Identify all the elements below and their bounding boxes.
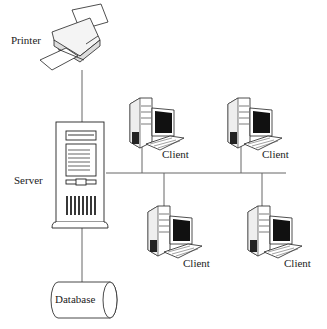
network-diagram bbox=[0, 0, 327, 329]
printer-icon bbox=[40, 4, 108, 70]
database-label: Database bbox=[55, 293, 95, 305]
client4-computer-icon bbox=[248, 206, 302, 258]
client4-label: Client bbox=[284, 257, 311, 269]
server-tower-icon bbox=[52, 122, 108, 228]
client3-computer-icon bbox=[148, 206, 202, 258]
client3-label: Client bbox=[183, 257, 210, 269]
printer-label: Printer bbox=[11, 34, 41, 46]
client2-label: Client bbox=[262, 148, 289, 160]
client1-label: Client bbox=[162, 148, 189, 160]
server-label: Server bbox=[14, 174, 43, 186]
client1-computer-icon bbox=[130, 98, 184, 150]
client2-computer-icon bbox=[228, 98, 282, 150]
